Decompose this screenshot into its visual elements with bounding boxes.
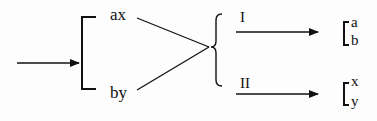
diagram-canvas: ax by I II a b x y	[0, 0, 377, 121]
output-bracket-i-icon	[344, 22, 349, 45]
output-b: b	[351, 33, 359, 48]
branch-label-i: I	[240, 10, 245, 25]
label-by: by	[110, 84, 127, 101]
output-bracket-ii-icon	[344, 83, 349, 105]
curly-brace-icon	[211, 14, 222, 86]
label-ax: ax	[110, 6, 126, 23]
diagram-graphics	[0, 0, 377, 121]
converging-lines-icon	[137, 18, 209, 90]
output-y: y	[351, 94, 359, 109]
output-x: x	[351, 74, 359, 89]
branch-label-ii: II	[240, 76, 250, 91]
left-bracket-icon	[82, 17, 96, 89]
output-a: a	[351, 15, 358, 30]
